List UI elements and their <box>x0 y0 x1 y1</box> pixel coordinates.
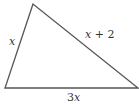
left-side-label: x <box>9 35 16 48</box>
right-side-label-rest: + 2 <box>91 28 114 41</box>
triangle-shape <box>5 4 138 88</box>
triangle-diagram: x x + 2 3x <box>0 0 139 104</box>
base-label: 3x <box>67 91 81 104</box>
right-side-label: x + 2 <box>85 28 114 41</box>
base-label-coef: 3 <box>67 91 74 104</box>
base-label-var: x <box>74 91 81 104</box>
